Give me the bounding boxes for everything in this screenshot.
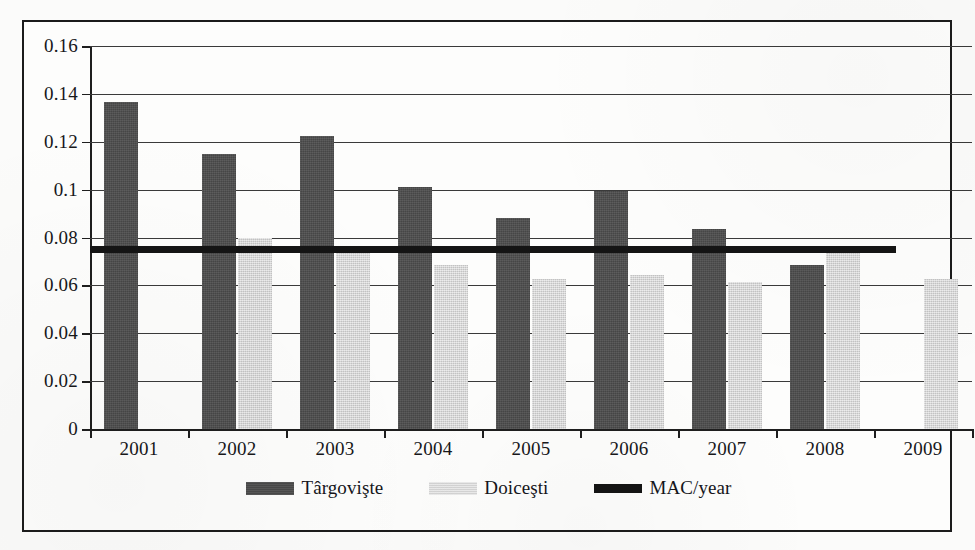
plot-area: 00.020.040.060.080.10.120.140.16 2001200… bbox=[90, 46, 972, 429]
x-tick-mark bbox=[286, 429, 288, 438]
x-tick-mark bbox=[384, 429, 386, 438]
bar-doiceti-2002 bbox=[238, 238, 272, 430]
gridline-0 bbox=[90, 429, 972, 431]
x-axis-label-2009: 2009 bbox=[904, 438, 943, 460]
legend-item-3: MAC/year bbox=[594, 477, 731, 499]
x-tick-mark bbox=[678, 429, 680, 438]
bar-trgovite-2008 bbox=[790, 265, 824, 429]
y-axis-label: 0.16 bbox=[44, 35, 78, 57]
y-axis-label: 0.12 bbox=[44, 131, 78, 153]
legend-item-1: Târgovişte bbox=[246, 477, 383, 499]
y-axis-label: 0.14 bbox=[44, 83, 78, 105]
chart-frame: 00.020.040.060.080.10.120.140.16 2001200… bbox=[22, 20, 952, 532]
y-axis-label: 0.1 bbox=[54, 179, 78, 201]
y-axis-label: 0.06 bbox=[44, 274, 78, 296]
chart-legend: TârgovişteDoiceştiMAC/year bbox=[24, 477, 954, 499]
bar-trgovite-2001 bbox=[104, 102, 138, 429]
x-tick-mark bbox=[482, 429, 484, 438]
gridline-0.12 bbox=[90, 142, 972, 143]
x-axis-label-2005: 2005 bbox=[512, 438, 551, 460]
gridline-0.16 bbox=[90, 46, 972, 47]
x-tick-mark bbox=[580, 429, 582, 438]
x-tick-mark bbox=[188, 429, 190, 438]
gridline-0.14 bbox=[90, 94, 972, 95]
x-axis-label-2004: 2004 bbox=[414, 438, 453, 460]
mac-threshold-line bbox=[90, 246, 896, 253]
x-axis-label-2008: 2008 bbox=[806, 438, 845, 460]
y-tick-mark bbox=[82, 333, 90, 335]
x-tick-mark bbox=[776, 429, 778, 438]
x-axis-label-2002: 2002 bbox=[218, 438, 257, 460]
y-tick-mark bbox=[82, 142, 90, 144]
y-axis-label: 0.02 bbox=[44, 370, 78, 392]
bar-doiceti-2009 bbox=[924, 279, 958, 429]
x-axis-label-2001: 2001 bbox=[120, 438, 159, 460]
x-axis-label-2006: 2006 bbox=[610, 438, 649, 460]
bar-trgovite-2002 bbox=[202, 154, 236, 429]
x-tick-mark bbox=[874, 429, 876, 438]
bar-doiceti-2004 bbox=[434, 265, 468, 429]
legend-label: Târgovişte bbox=[301, 477, 383, 499]
y-axis-label: 0 bbox=[68, 418, 78, 440]
bar-trgovite-2006 bbox=[594, 191, 628, 429]
dark-gray-bar-swatch bbox=[246, 482, 294, 495]
legend-label: MAC/year bbox=[649, 477, 731, 499]
bar-trgovite-2003 bbox=[300, 136, 334, 429]
y-tick-mark bbox=[82, 429, 90, 431]
y-tick-mark bbox=[82, 285, 90, 287]
x-axis-label-2007: 2007 bbox=[708, 438, 747, 460]
y-tick-mark bbox=[82, 94, 90, 96]
x-axis-label-2003: 2003 bbox=[316, 438, 355, 460]
bar-doiceti-2008 bbox=[826, 253, 860, 429]
y-axis-label: 0.08 bbox=[44, 227, 78, 249]
legend-label: Doiceşti bbox=[484, 477, 548, 499]
y-axis-label: 0.04 bbox=[44, 322, 78, 344]
y-tick-mark bbox=[82, 381, 90, 383]
x-tick-mark bbox=[972, 429, 974, 438]
y-tick-mark bbox=[82, 238, 90, 240]
legend-item-2: Doiceşti bbox=[429, 477, 548, 499]
light-gray-bar-swatch bbox=[429, 482, 477, 495]
bar-doiceti-2003 bbox=[336, 252, 370, 429]
y-tick-mark bbox=[82, 190, 90, 192]
bar-trgovite-2007 bbox=[692, 229, 726, 429]
bar-trgovite-2004 bbox=[398, 187, 432, 429]
bar-doiceti-2007 bbox=[728, 282, 762, 429]
x-tick-mark bbox=[90, 429, 92, 438]
y-tick-mark bbox=[82, 46, 90, 48]
bar-doiceti-2005 bbox=[532, 279, 566, 429]
bar-doiceti-2006 bbox=[630, 275, 664, 429]
black-line-swatch bbox=[594, 484, 642, 493]
scanned-page: 00.020.040.060.080.10.120.140.16 2001200… bbox=[0, 0, 975, 550]
